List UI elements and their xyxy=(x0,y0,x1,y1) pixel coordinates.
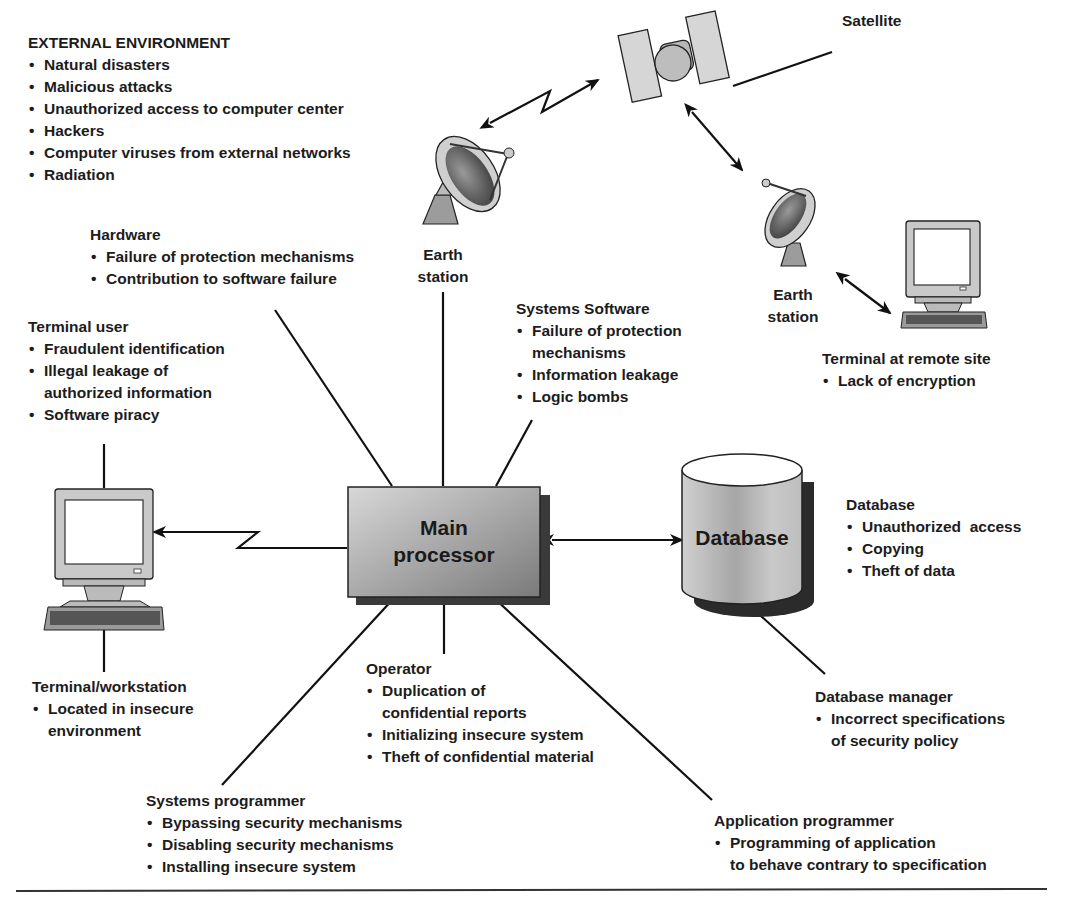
database-title: Database xyxy=(846,494,1021,516)
list-item: Contribution to software failure xyxy=(90,268,354,290)
earth-station-2-line2: station xyxy=(760,306,826,328)
terminal-workstation-title: Terminal/workstation xyxy=(32,676,194,698)
list-item: Radiation xyxy=(28,164,351,186)
bottom-rule xyxy=(16,889,1047,891)
list-item: Bypassing security mechanisms xyxy=(146,812,402,834)
earthstation1-satellite-link xyxy=(490,80,598,123)
list-item: Information leakage xyxy=(516,364,682,386)
operator-title: Operator xyxy=(366,658,594,680)
systems-software-title: Systems Software xyxy=(516,298,682,320)
list-item: Failure of protection mechanisms xyxy=(516,320,682,364)
earth-station-1-line2: station xyxy=(410,266,476,288)
list-item: Theft of data xyxy=(846,560,1021,582)
satellite-label: Satellite xyxy=(842,10,901,32)
terminal-user-title: Terminal user xyxy=(28,316,225,338)
systems-programmer-label: Systems programmer Bypassing security me… xyxy=(146,790,402,878)
earth-station-2-label: Earth station xyxy=(760,284,826,328)
terminal-workstation-label: Terminal/workstation Located in insecure… xyxy=(32,676,194,742)
security-threats-diagram: EXTERNAL ENVIRONMENT Natural disasters M… xyxy=(0,0,1065,914)
list-item: Computer viruses from external networks xyxy=(28,142,351,164)
earthstation2-terminal-link xyxy=(845,279,890,313)
main-processor-label: Main processor xyxy=(348,514,540,568)
workstation-link xyxy=(154,532,347,548)
list-item: Installing insecure system xyxy=(146,856,402,878)
earth-station-dish-icon-2 xyxy=(755,179,826,266)
list-item: Incorrect specifications of security pol… xyxy=(815,708,1005,752)
workstation-computer-icon xyxy=(44,489,164,630)
remote-terminal-title: Terminal at remote site xyxy=(822,348,991,370)
list-item: Failure of protection mechanisms xyxy=(90,246,354,268)
list-item: Theft of confidential material xyxy=(366,746,594,768)
satellite-icon xyxy=(617,11,730,102)
earth-station-dish-icon-1 xyxy=(423,125,514,224)
list-item: Malicious attacks xyxy=(28,76,351,98)
hardware-title: Hardware xyxy=(90,224,354,246)
database-manager-title: Database manager xyxy=(815,686,1005,708)
list-item: Located in insecure environment xyxy=(32,698,194,742)
list-item: Programming of application to behave con… xyxy=(714,832,987,876)
database-label: Database Unauthorized access Copying The… xyxy=(846,494,1021,582)
list-item: Lack of encryption xyxy=(822,370,991,392)
list-item: Unauthorized access xyxy=(846,516,1021,538)
list-item: Illegal leakage of authorized informatio… xyxy=(28,360,225,404)
operator-label: Operator Duplication of confidential rep… xyxy=(366,658,594,768)
list-item: Software piracy xyxy=(28,404,225,426)
systems-software-label: Systems Software Failure of protection m… xyxy=(516,298,682,408)
external-environment-label: EXTERNAL ENVIRONMENT Natural disasters M… xyxy=(28,32,351,186)
list-item: Initializing insecure system xyxy=(366,724,594,746)
list-item: Duplication of confidential reports xyxy=(366,680,594,724)
list-item: Fraudulent identification xyxy=(28,338,225,360)
remote-terminal-label: Terminal at remote site Lack of encrypti… xyxy=(822,348,991,392)
list-item: Unauthorized access to computer center xyxy=(28,98,351,120)
list-item: Natural disasters xyxy=(28,54,351,76)
list-item: Copying xyxy=(846,538,1021,560)
application-programmer-title: Application programmer xyxy=(714,810,987,832)
list-item: Logic bombs xyxy=(516,386,682,408)
hardware-label: Hardware Failure of protection mechanism… xyxy=(90,224,354,290)
database-node-label: Database xyxy=(682,524,802,551)
list-item: Disabling security mechanisms xyxy=(146,834,402,856)
satellite-earthstation2-link xyxy=(692,112,742,170)
earth-station-1-line1: Earth xyxy=(410,244,476,266)
external-environment-title: EXTERNAL ENVIRONMENT xyxy=(28,32,351,54)
database-manager-label: Database manager Incorrect specification… xyxy=(815,686,1005,752)
earth-station-1-label: Earth station xyxy=(410,244,476,288)
systems-programmer-title: Systems programmer xyxy=(146,790,402,812)
application-programmer-label: Application programmer Programming of ap… xyxy=(714,810,987,876)
systems-software-connector xyxy=(496,420,532,486)
hardware-connector xyxy=(275,310,392,486)
main-processor-line2: processor xyxy=(348,541,540,568)
terminal-user-label: Terminal user Fraudulent identification … xyxy=(28,316,225,426)
satellite-label-connector xyxy=(733,52,832,86)
main-processor-line1: Main xyxy=(348,514,540,541)
remote-terminal-computer-icon xyxy=(901,221,987,328)
earth-station-2-line1: Earth xyxy=(760,284,826,306)
list-item: Hackers xyxy=(28,120,351,142)
